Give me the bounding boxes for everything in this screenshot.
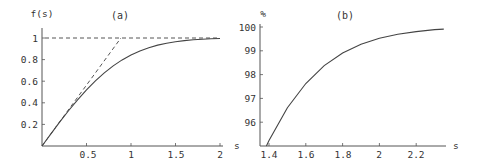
- chart-a-xlabel: s: [234, 140, 240, 151]
- chart-a-ytick: 0.6: [21, 76, 38, 87]
- chart-b-curve: [266, 29, 443, 146]
- chart-a-title: (a): [111, 10, 129, 21]
- chart-b-xtick: 2: [376, 149, 382, 160]
- chart-a-ytick: 0.8: [21, 54, 38, 65]
- chart-b-y-ticks: 96 97 98 99 100: [239, 22, 263, 128]
- chart-b-xtick: 1.4: [260, 149, 277, 160]
- chart-a-ytick: 0.2: [21, 119, 38, 130]
- chart-b-xtick: 1.8: [334, 149, 351, 160]
- figure: (a) f(s) s 0.2 0.4 0.6 0.8 1 0.5 1 1.5: [0, 0, 479, 165]
- chart-b: (b) % s 96 97 98 99 100 1.4 1.6: [239, 8, 459, 160]
- chart-b-title: (b): [336, 10, 354, 21]
- chart-b-ytick: 96: [245, 117, 257, 128]
- chart-b-xtick: 1.6: [297, 149, 314, 160]
- chart-b-ytick: 97: [245, 93, 256, 104]
- chart-b-ylabel: %: [260, 8, 266, 19]
- chart-a-curve: [42, 39, 220, 147]
- chart-b-ytick: 100: [239, 22, 256, 33]
- chart-a: (a) f(s) s 0.2 0.4 0.6 0.8 1 0.5 1 1.5: [21, 8, 240, 160]
- chart-a-xtick: 1.5: [167, 149, 184, 160]
- chart-b-xtick: 2.2: [407, 149, 424, 160]
- chart-a-xtick: 1: [128, 149, 134, 160]
- chart-b-ytick: 98: [245, 69, 257, 80]
- chart-b-xlabel: s: [453, 140, 459, 151]
- chart-a-y-ticks: 0.2 0.4 0.6 0.8 1: [21, 33, 45, 130]
- chart-a-xtick: 0.5: [79, 149, 96, 160]
- chart-a-ylabel: f(s): [31, 8, 54, 19]
- chart-b-ytick: 99: [245, 45, 257, 56]
- chart-a-ytick: 1: [32, 33, 38, 44]
- chart-a-ytick: 0.4: [21, 97, 38, 108]
- chart-a-xtick: 2: [217, 149, 223, 160]
